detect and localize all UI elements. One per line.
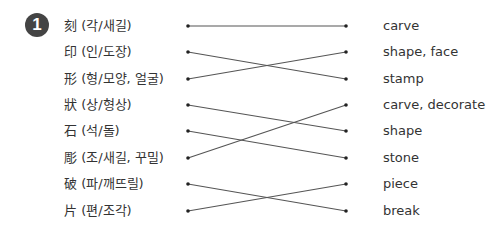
left-dot [186,209,190,213]
right-dot [344,103,348,107]
right-item: shape [383,123,422,139]
left-dot [186,103,190,107]
right-item: stone [383,150,419,166]
right-item: break [383,203,420,219]
right-item: stamp [383,71,424,87]
left-dot [186,77,190,81]
right-dot [344,50,348,54]
left-dot [186,129,190,133]
right-item: piece [383,176,418,192]
right-item: carve, decorate [383,97,485,113]
right-dot [344,129,348,133]
right-dot [344,156,348,160]
right-dot [344,77,348,81]
left-dot [186,50,190,54]
connection-line [188,105,346,158]
right-item: carve [383,18,419,34]
right-item: shape, face [383,44,458,60]
right-dot [344,182,348,186]
connection-line [188,105,346,131]
right-dot [344,24,348,28]
left-dot [186,156,190,160]
connection-line [188,131,346,158]
left-dot [186,182,190,186]
right-dot [344,209,348,213]
matching-lines [0,0,494,232]
left-dot [186,24,190,28]
